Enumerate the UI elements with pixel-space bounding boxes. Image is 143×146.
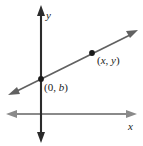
- point-label-general: (x, y): [97, 55, 120, 66]
- point-label-y-intercept-suffix: ): [64, 81, 68, 93]
- y-axis-arrow-up: [37, 5, 45, 16]
- point-label-general-suffix: ): [116, 54, 120, 66]
- x-axis-label: x: [128, 121, 133, 132]
- x-axis-arrow-right: [126, 110, 137, 118]
- graph-figure: y x (0, b) (x, y): [0, 0, 143, 146]
- point-label-y-intercept-prefix: (0,: [44, 81, 59, 93]
- point-label-y-intercept: (0, b): [44, 82, 68, 93]
- x-axis-group: [6, 110, 137, 118]
- coordinate-plane-svg: [0, 0, 143, 146]
- y-axis-label: y: [46, 10, 51, 21]
- x-axis-arrow-left: [6, 110, 17, 118]
- line-arrow-lower-left: [8, 87, 20, 95]
- y-axis-arrow-down: [37, 132, 45, 143]
- point-xy-dot: [89, 50, 95, 56]
- y-axis-group: [37, 5, 45, 143]
